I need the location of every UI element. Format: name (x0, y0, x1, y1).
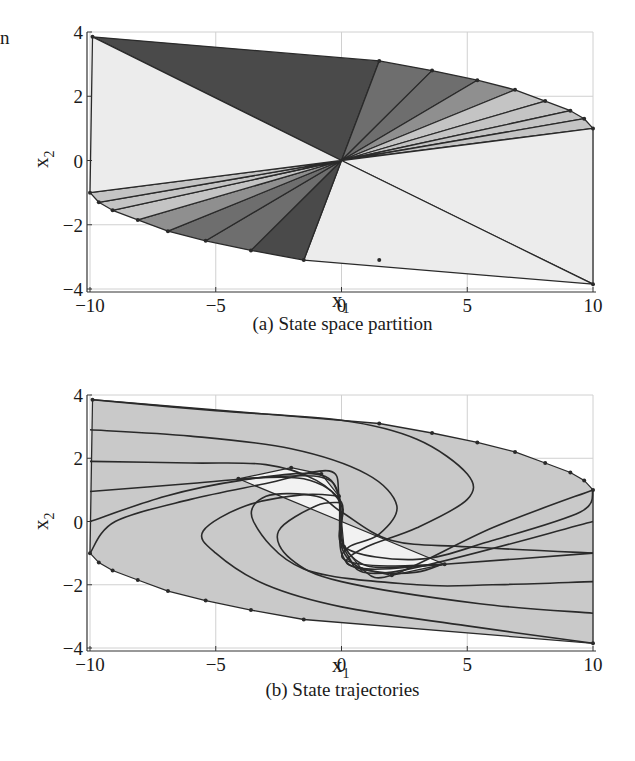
y-tick-label: 4 (74, 385, 84, 406)
caption-a: (a) State space partition (0, 313, 635, 335)
y-tick-label: 0 (74, 512, 84, 533)
y-tick-label: −2 (63, 575, 83, 596)
y-axis-label: x2 (29, 513, 57, 531)
partition-plot: −10−50510420−2−4 x1 x2 (0, 0, 635, 330)
figure-state-space-partition: −10−50510420−2−4 x1 x2 (a) State space p… (0, 0, 635, 365)
y-tick-label: −2 (63, 215, 83, 236)
x-tick-label: −5 (206, 654, 226, 675)
y-tick-label: 4 (74, 22, 84, 43)
figure-state-trajectories: −10−50510420−2−4 x1 x2 (b) State traject… (0, 365, 635, 761)
partition-regions (90, 37, 593, 284)
y-tick-label: 2 (74, 86, 84, 107)
caption-b: (b) State trajectories (0, 679, 635, 701)
y-tick-label: 2 (74, 448, 84, 469)
y-tick-label: −4 (63, 638, 84, 659)
x-tick-label: 10 (584, 654, 603, 675)
trajectory-plot: −10−50510420−2−4 x1 x2 (0, 365, 635, 695)
x-tick-label: 5 (463, 654, 473, 675)
x-axis-label: x1 (332, 653, 350, 681)
y-tick-label: −4 (63, 279, 84, 300)
y-axis-label: x2 (29, 151, 57, 169)
y-tick-label: 0 (74, 151, 84, 172)
